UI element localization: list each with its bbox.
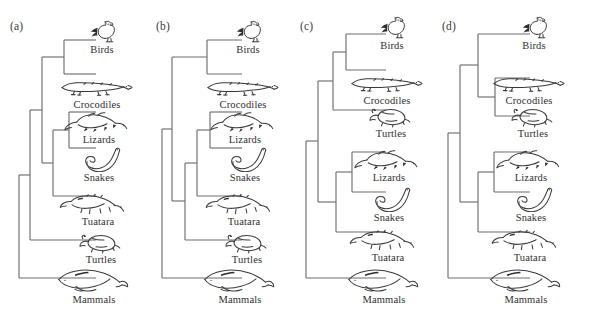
- taxon-label-lizards: Lizards: [58, 134, 140, 146]
- taxon-label-birds: Birds: [351, 40, 433, 52]
- whale-mammal-icon: [343, 264, 425, 294]
- taxon-label-mammals: Mammals: [343, 294, 425, 306]
- taxon-lizards: Lizards: [204, 108, 286, 146]
- lizard-icon: [348, 146, 430, 172]
- bird-rooster-icon: [61, 18, 143, 44]
- taxon-tuatara: Tuatara: [489, 226, 571, 264]
- taxon-label-tuatara: Tuatara: [347, 252, 429, 264]
- whale-mammal-icon: [485, 264, 567, 294]
- cladogram-panel-d: (d) Birds Crocodiles: [438, 0, 588, 319]
- taxon-mammals: Mammals: [53, 264, 135, 306]
- taxon-label-lizards: Lizards: [204, 134, 286, 146]
- taxon-birds: Birds: [493, 14, 575, 52]
- taxon-turtles: Turtles: [492, 102, 574, 140]
- taxon-label-lizards: Lizards: [348, 172, 430, 184]
- taxon-snakes: Snakes: [58, 146, 140, 184]
- taxon-crocodiles: Crocodiles: [56, 73, 138, 111]
- tuatara-icon: [57, 190, 139, 216]
- taxon-turtles: Turtles: [206, 228, 288, 266]
- turtle-icon: [206, 228, 288, 254]
- crocodile-icon: [346, 69, 428, 95]
- snake-icon: [204, 146, 286, 172]
- bird-rooster-icon: [207, 18, 289, 44]
- taxon-label-turtles: Turtles: [350, 128, 432, 140]
- taxon-mammals: Mammals: [199, 264, 281, 306]
- taxon-label-lizards: Lizards: [490, 172, 572, 184]
- taxon-crocodiles: Crocodiles: [202, 73, 284, 111]
- turtle-icon: [60, 228, 142, 254]
- whale-mammal-icon: [53, 264, 135, 294]
- taxon-label-tuatara: Tuatara: [489, 252, 571, 264]
- crocodile-icon: [202, 73, 284, 99]
- crocodile-icon: [56, 73, 138, 99]
- tuatara-icon: [489, 226, 571, 252]
- turtle-icon: [350, 102, 432, 128]
- taxon-mammals: Mammals: [343, 264, 425, 306]
- lizard-icon: [58, 108, 140, 134]
- turtle-icon: [492, 102, 574, 128]
- taxon-lizards: Lizards: [58, 108, 140, 146]
- taxon-tuatara: Tuatara: [203, 190, 285, 228]
- taxon-label-tuatara: Tuatara: [203, 216, 285, 228]
- taxon-label-snakes: Snakes: [490, 212, 572, 224]
- bird-rooster-icon: [493, 14, 575, 40]
- whale-mammal-icon: [199, 264, 281, 294]
- cladogram-panel-b: (b) Birds Crocodiles: [152, 0, 302, 319]
- taxon-tuatara: Tuatara: [347, 226, 429, 264]
- taxon-label-turtles: Turtles: [492, 128, 574, 140]
- taxon-snakes: Snakes: [348, 186, 430, 224]
- snake-icon: [348, 186, 430, 212]
- taxon-label-birds: Birds: [61, 44, 143, 56]
- snake-icon: [58, 146, 140, 172]
- taxon-turtles: Turtles: [350, 102, 432, 140]
- taxon-birds: Birds: [351, 14, 433, 52]
- taxon-label-tuatara: Tuatara: [57, 216, 139, 228]
- taxon-lizards: Lizards: [490, 146, 572, 184]
- taxon-tuatara: Tuatara: [57, 190, 139, 228]
- taxon-label-mammals: Mammals: [199, 294, 281, 306]
- taxon-label-mammals: Mammals: [53, 294, 135, 306]
- taxon-lizards: Lizards: [348, 146, 430, 184]
- cladogram-panel-c: (c) Birds Crocodiles: [296, 0, 446, 319]
- lizard-icon: [490, 146, 572, 172]
- bird-rooster-icon: [351, 14, 433, 40]
- taxon-mammals: Mammals: [485, 264, 567, 306]
- taxon-label-snakes: Snakes: [348, 212, 430, 224]
- taxon-label-snakes: Snakes: [58, 172, 140, 184]
- tuatara-icon: [203, 190, 285, 216]
- taxon-label-snakes: Snakes: [204, 172, 286, 184]
- lizard-icon: [204, 108, 286, 134]
- taxon-snakes: Snakes: [490, 186, 572, 224]
- snake-icon: [490, 186, 572, 212]
- crocodile-icon: [488, 69, 570, 95]
- cladogram-panel-a: (a) Birds Crocodiles: [6, 0, 156, 319]
- taxon-birds: Birds: [61, 18, 143, 56]
- phylogeny-figure: (a) Birds Crocodiles: [0, 0, 590, 319]
- taxon-label-birds: Birds: [207, 44, 289, 56]
- taxon-label-mammals: Mammals: [485, 294, 567, 306]
- taxon-birds: Birds: [207, 18, 289, 56]
- taxon-label-birds: Birds: [493, 40, 575, 52]
- taxon-turtles: Turtles: [60, 228, 142, 266]
- tuatara-icon: [347, 226, 429, 252]
- taxon-snakes: Snakes: [204, 146, 286, 184]
